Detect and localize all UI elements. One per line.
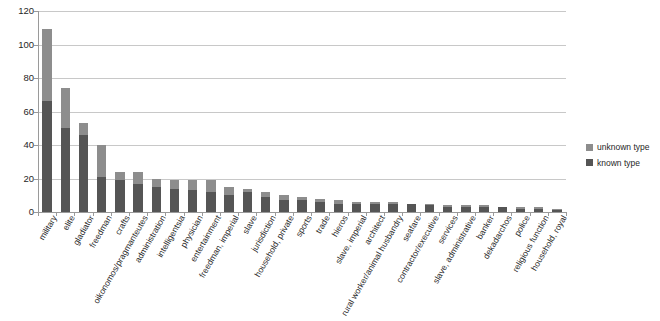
legend-item-known-type[interactable]: known type xyxy=(586,159,649,168)
x-axis-tick xyxy=(384,212,385,216)
bar[interactable] xyxy=(388,202,397,212)
x-axis-tick xyxy=(420,212,421,216)
bar[interactable] xyxy=(42,29,51,212)
y-axis-tick-label: 60 xyxy=(23,107,34,117)
x-axis-tick xyxy=(493,212,494,216)
bar[interactable] xyxy=(152,179,161,213)
legend-item-label: unknown type xyxy=(597,143,649,152)
x-axis-tick xyxy=(311,212,312,216)
bar-segment-unknown-type xyxy=(170,180,179,188)
y-axis-tick-label: 80 xyxy=(23,73,34,83)
bar-segment-known-type xyxy=(115,180,124,212)
x-axis-tick xyxy=(366,212,367,216)
x-axis-tick xyxy=(402,212,403,216)
x-axis-tick xyxy=(56,212,57,216)
bar-segment-known-type xyxy=(407,204,416,212)
x-axis-labels: militaryelitegladiatorfreedmancraftsoiko… xyxy=(38,214,566,321)
bar-segment-known-type xyxy=(425,205,434,212)
x-axis-category-label: slave xyxy=(241,214,258,235)
bar-segment-known-type xyxy=(224,195,233,212)
x-axis-tick xyxy=(530,212,531,216)
bar-segment-unknown-type xyxy=(115,172,124,180)
y-axis-tick-label: 120 xyxy=(18,6,34,16)
y-axis-tick xyxy=(34,11,38,12)
bar[interactable] xyxy=(133,172,142,212)
y-axis-line xyxy=(38,11,39,213)
bar[interactable] xyxy=(261,192,270,212)
bar-segment-unknown-type xyxy=(133,172,142,184)
bar-segment-known-type xyxy=(61,128,70,212)
bar[interactable] xyxy=(352,202,361,212)
bar[interactable] xyxy=(206,180,215,212)
bar-segment-known-type xyxy=(352,204,361,212)
x-axis-tick xyxy=(475,212,476,216)
x-axis-tick xyxy=(548,212,549,216)
bar-series-group xyxy=(38,11,566,212)
bar-segment-known-type xyxy=(370,204,379,212)
bar-segment-known-type xyxy=(315,202,324,212)
legend-item-label: known type xyxy=(597,159,640,168)
bar-segment-unknown-type xyxy=(206,180,215,192)
x-axis-tick xyxy=(184,212,185,216)
bar[interactable] xyxy=(115,172,124,212)
bar-segment-unknown-type xyxy=(42,29,51,101)
bar-segment-known-type xyxy=(206,192,215,212)
x-axis-tick xyxy=(74,212,75,216)
bar-segment-known-type xyxy=(261,197,270,212)
bar[interactable] xyxy=(407,204,416,212)
y-axis-tick xyxy=(34,112,38,113)
x-axis-tick xyxy=(220,212,221,216)
y-axis-tick xyxy=(34,45,38,46)
bar[interactable] xyxy=(297,197,306,212)
bar-segment-known-type xyxy=(388,204,397,212)
y-axis-tick-label: 20 xyxy=(23,174,34,184)
x-axis-tick xyxy=(202,212,203,216)
x-axis-tick xyxy=(275,212,276,216)
x-axis-tick xyxy=(511,212,512,216)
legend-item-unknown-type[interactable]: unknown type xyxy=(586,143,649,152)
bar-segment-known-type xyxy=(42,101,51,212)
bar-segment-unknown-type xyxy=(224,187,233,195)
bar-segment-unknown-type xyxy=(61,88,70,128)
bar[interactable] xyxy=(370,202,379,212)
x-axis-tick xyxy=(93,212,94,216)
bar[interactable] xyxy=(425,204,434,212)
x-axis-tick xyxy=(566,212,567,216)
x-axis-tick xyxy=(147,212,148,216)
bar[interactable] xyxy=(79,123,88,212)
bar-segment-known-type xyxy=(79,135,88,212)
x-axis-tick xyxy=(293,212,294,216)
x-axis-category-label: military xyxy=(38,214,59,242)
bar[interactable] xyxy=(279,195,288,212)
bar[interactable] xyxy=(461,205,470,212)
bar[interactable] xyxy=(315,199,324,212)
bar-segment-unknown-type xyxy=(152,179,161,187)
bar-segment-unknown-type xyxy=(97,145,106,177)
y-axis-tick xyxy=(34,179,38,180)
bar[interactable] xyxy=(97,145,106,212)
bar[interactable] xyxy=(61,88,70,212)
bar-segment-known-type xyxy=(188,190,197,212)
bar[interactable] xyxy=(170,180,179,212)
bar-chart: 020406080100120 militaryelitegladiatorfr… xyxy=(0,0,660,321)
y-axis-tick-label: 40 xyxy=(23,140,34,150)
x-axis-tick xyxy=(165,212,166,216)
x-axis-tick xyxy=(329,212,330,216)
x-axis-tick xyxy=(348,212,349,216)
x-axis-tick xyxy=(129,212,130,216)
x-axis-tick xyxy=(38,212,39,216)
legend-swatch-icon xyxy=(586,159,593,166)
y-axis-tick xyxy=(34,145,38,146)
bar[interactable] xyxy=(479,205,488,212)
bar-segment-known-type xyxy=(243,192,252,212)
bar-segment-known-type xyxy=(133,184,142,212)
bar-segment-unknown-type xyxy=(188,180,197,190)
bar[interactable] xyxy=(243,189,252,212)
bar[interactable] xyxy=(224,187,233,212)
bar[interactable] xyxy=(188,180,197,212)
bar[interactable] xyxy=(443,205,452,212)
y-axis-tick-label: 100 xyxy=(18,40,34,50)
bar[interactable] xyxy=(334,200,343,212)
x-axis-tick xyxy=(457,212,458,216)
x-axis-tick xyxy=(256,212,257,216)
